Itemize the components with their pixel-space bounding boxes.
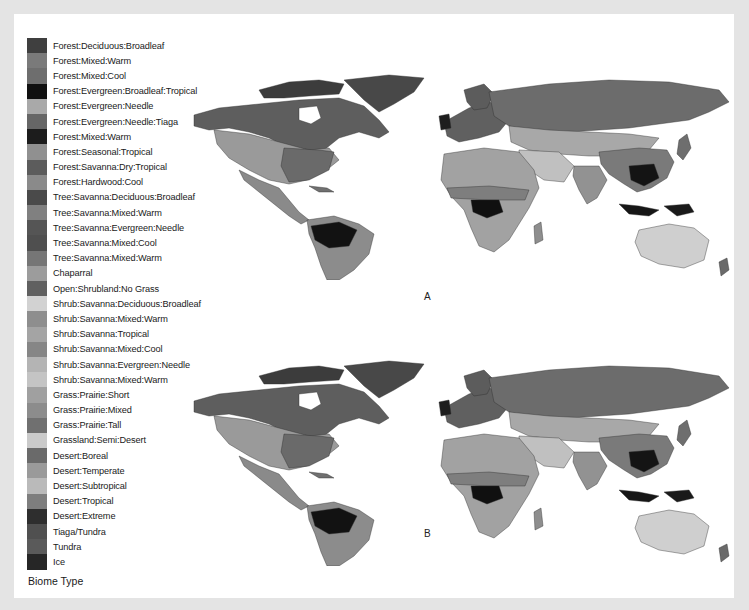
legend-item: Tundra [27, 539, 207, 554]
legend-label: Forest:Evergreen:Broadleaf:Tropical [53, 86, 197, 96]
legend-swatch [27, 387, 47, 402]
legend-label: Forest:Deciduous:Broadleaf [53, 41, 164, 51]
land-region [719, 258, 729, 276]
legend-swatch [27, 554, 47, 569]
legend-item: Tree:Savanna:Mixed:Warm [27, 251, 207, 266]
legend-label: Grass:Prairie:Mixed [53, 405, 132, 415]
legend-swatch [27, 463, 47, 478]
legend-item: Open:Shrubland:No Grass [27, 281, 207, 296]
legend-swatch [27, 327, 47, 342]
legend-item: Forest:Evergreen:Broadleaf:Tropical [27, 84, 207, 99]
legend-label: Open:Shrubland:No Grass [53, 284, 159, 294]
legend-item: Desert:Extreme [27, 509, 207, 524]
legend-label: Ice [53, 557, 65, 567]
legend-label: Tree:Savanna:Mixed:Warm [53, 208, 162, 218]
legend-item: Desert:Tropical [27, 494, 207, 509]
legend-label: Tiaga/Tundra [53, 527, 106, 537]
land-region [664, 204, 694, 216]
map-label-a: A [424, 291, 431, 302]
legend-label: Tree:Savanna:Evergreen:Needle [53, 223, 184, 233]
land-region [309, 472, 334, 478]
land-region [573, 452, 607, 490]
legend-swatch [27, 160, 47, 175]
legend-label: Grassland:Semi:Desert [53, 435, 146, 445]
legend-swatch [27, 266, 47, 281]
legend-label: Tree:Savanna:Deciduous:Broadleaf [53, 192, 195, 202]
legend-swatch [27, 494, 47, 509]
legend-label: Grass:Prairie:Tall [53, 420, 121, 430]
legend-item: Forest:Seasonal:Tropical [27, 144, 207, 159]
world-map-a: A [189, 20, 734, 280]
world-map-b: B [189, 306, 734, 566]
legend-item: Ice [27, 554, 207, 569]
legend-swatch [27, 53, 47, 68]
legend-swatch [27, 38, 47, 53]
legend-item: Chaparral [27, 266, 207, 281]
world-map-b-graphic [189, 306, 734, 566]
legend-item: Grass:Prairie:Short [27, 387, 207, 402]
land-region [635, 510, 709, 554]
legend-item: Grass:Prairie:Tall [27, 418, 207, 433]
legend-item: Shrub:Savanna:Mixed:Cool [27, 342, 207, 357]
figure-panel: Forest:Deciduous:BroadleafForest:Mixed:W… [14, 14, 734, 598]
legend-swatch [27, 114, 47, 129]
legend-swatch [27, 539, 47, 554]
legend-item: Tree:Savanna:Deciduous:Broadleaf [27, 190, 207, 205]
world-map-a-graphic [189, 20, 734, 280]
legend-label: Desert:Subtropical [53, 481, 127, 491]
legend-item: Forest:Evergreen:Needle:Tiaga [27, 114, 207, 129]
legend-item: Shrub:Savanna:Mixed:Warm [27, 372, 207, 387]
legend-item: Desert:Temperate [27, 463, 207, 478]
land-region [439, 400, 451, 416]
legend-swatch [27, 418, 47, 433]
land-region [281, 148, 334, 182]
land-region [534, 508, 543, 530]
legend-label: Chaparral [53, 268, 92, 278]
legend-label: Tree:Savanna:Mixed:Cool [53, 238, 157, 248]
legend-swatch [27, 99, 47, 114]
legend-swatch [27, 433, 47, 448]
land-region [677, 134, 691, 160]
legend-item: Forest:Evergreen:Needle [27, 99, 207, 114]
legend-item: Shrub:Savanna:Deciduous:Broadleaf [27, 296, 207, 311]
legend-item: Tiaga/Tundra [27, 524, 207, 539]
land-region [619, 204, 659, 216]
legend-label: Tundra [53, 542, 81, 552]
legend-label: Desert:Extreme [53, 511, 115, 521]
land-region [677, 420, 691, 446]
biome-legend: Forest:Deciduous:BroadleafForest:Mixed:W… [27, 38, 207, 587]
map-label-b: B [424, 528, 431, 539]
land-region [619, 490, 659, 502]
land-region [489, 80, 729, 132]
legend-label: Forest:Hardwood:Cool [53, 177, 143, 187]
land-region [573, 166, 607, 204]
legend-swatch [27, 175, 47, 190]
legend-item: Tree:Savanna:Mixed:Cool [27, 235, 207, 250]
legend-swatch [27, 144, 47, 159]
legend-item: Grassland:Semi:Desert [27, 433, 207, 448]
legend-item: Shrub:Savanna:Tropical [27, 327, 207, 342]
legend-swatch [27, 357, 47, 372]
legend-item: Desert:Boreal [27, 448, 207, 463]
legend-swatch [27, 84, 47, 99]
legend-item: Forest:Deciduous:Broadleaf [27, 38, 207, 53]
legend-item: Grass:Prairie:Mixed [27, 403, 207, 418]
legend-label: Shrub:Savanna:Deciduous:Broadleaf [53, 299, 201, 309]
land-region [281, 434, 334, 468]
land-region [489, 366, 729, 418]
land-region [664, 490, 694, 502]
legend-swatch [27, 524, 47, 539]
land-region [309, 186, 334, 192]
legend-swatch [27, 251, 47, 266]
legend-swatch [27, 342, 47, 357]
land-region [439, 114, 451, 130]
legend-label: Tree:Savanna:Mixed:Warm [53, 253, 162, 263]
legend-label: Desert:Boreal [53, 451, 108, 461]
land-region [259, 366, 344, 384]
legend-swatch [27, 220, 47, 235]
legend-label: Forest:Evergreen:Needle:Tiaga [53, 117, 178, 127]
legend-label: Desert:Temperate [53, 466, 124, 476]
legend-label: Shrub:Savanna:Evergreen:Needle [53, 360, 190, 370]
legend-title: Biome Type [28, 575, 207, 587]
legend-swatch [27, 509, 47, 524]
